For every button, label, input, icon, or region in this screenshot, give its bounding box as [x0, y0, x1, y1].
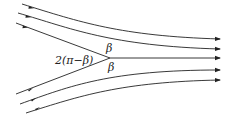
streamline-top-outer: [22, 4, 220, 39]
beta-lower-label: β: [108, 62, 114, 73]
streamline-top-inner: [16, 23, 110, 58]
arrow-icon: [31, 98, 36, 102]
beta-upper-label: β: [106, 43, 112, 54]
streamline-top-middle: [18, 13, 220, 49]
streamline-diagram: [0, 0, 230, 119]
streamline-bot-middle: [20, 70, 220, 104]
streamline-bot-outer: [26, 80, 220, 113]
apex-angle-label: 2(π−β): [55, 55, 93, 66]
